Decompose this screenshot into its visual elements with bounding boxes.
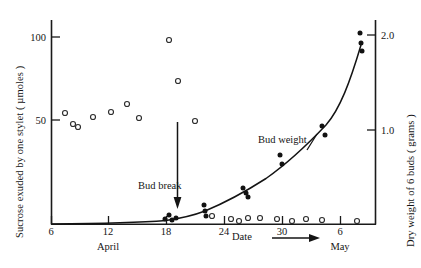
chart-canvas [0, 0, 421, 268]
marker-open [167, 38, 172, 43]
marker-filled [323, 133, 328, 138]
marker-open [125, 102, 130, 107]
series-bud-weight-markers [163, 31, 365, 223]
marker-open [176, 79, 181, 84]
x-axis-month-april: April [97, 241, 119, 252]
marker-filled [202, 203, 207, 208]
marker-open [355, 219, 360, 224]
marker-open [71, 122, 76, 127]
x-tick-label-24-april: 24 [219, 226, 230, 237]
marker-filled [360, 49, 365, 54]
marker-filled [246, 195, 251, 200]
marker-filled [278, 153, 283, 158]
figure-sucrose-bud-weight: Sucrose exuded by one stylet ( µmoles ) … [0, 0, 421, 268]
x-axis-month-may: May [330, 241, 349, 252]
y-axis-right-title: Dry weight of 6 buds ( grams ) [405, 114, 416, 247]
x-tick-label-30-april: 30 [277, 226, 288, 237]
marker-filled [167, 213, 172, 218]
marker-open [275, 217, 280, 222]
bud-break-arrow-icon [174, 122, 182, 209]
annotation-bud-weight: Bud weight [258, 134, 307, 145]
marker-filled [163, 217, 168, 222]
marker-filled [241, 186, 246, 191]
marker-open [229, 217, 234, 222]
annotation-bud-break: Bud break [138, 180, 181, 191]
marker-open [137, 116, 142, 121]
x-tick-label-12-april: 12 [103, 226, 114, 237]
marker-filled [204, 214, 209, 219]
marker-filled [359, 41, 364, 46]
x-tick-label-18-april: 18 [161, 226, 172, 237]
marker-filled [358, 31, 363, 36]
marker-open [210, 214, 215, 219]
x-axis-title: Date [232, 231, 252, 242]
marker-open [258, 216, 263, 221]
marker-open [193, 119, 198, 124]
marker-filled [203, 209, 208, 214]
marker-open [63, 111, 68, 116]
marker-open [304, 217, 309, 222]
y-tick-label-right-2: 2.0 [381, 30, 394, 41]
marker-filled [320, 124, 325, 129]
marker-open [91, 115, 96, 120]
marker-open [237, 219, 242, 224]
marker-open [290, 219, 295, 224]
marker-open [246, 216, 251, 221]
marker-open [320, 218, 325, 223]
y-axis-left-title: Sucrose exuded by one stylet ( µmoles ) [14, 66, 25, 238]
y-tick-label-left-100: 100 [22, 32, 46, 43]
marker-filled [174, 216, 179, 221]
marker-open [76, 125, 81, 130]
y-tick-label-left-50: 50 [22, 115, 46, 126]
bud-weight-curve [52, 45, 361, 224]
x-tick-label-6-april: 6 [48, 226, 53, 237]
marker-open [109, 110, 114, 115]
x-tick-label-6-may: 6 [337, 226, 342, 237]
marker-filled [280, 162, 285, 167]
y-tick-label-right-1: 1.0 [381, 125, 394, 136]
series-sucrose-markers [63, 38, 360, 224]
